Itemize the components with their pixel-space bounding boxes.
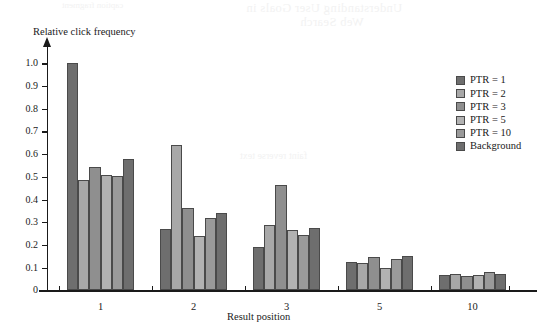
legend-item-label: PTR = 10 xyxy=(470,128,511,139)
x-tick-label: 5 xyxy=(377,302,382,313)
bar xyxy=(484,272,495,290)
bar xyxy=(205,218,216,291)
y-tick-label: 0.6 xyxy=(26,149,39,159)
y-tick-mark xyxy=(42,86,48,87)
y-tick-mark xyxy=(42,245,48,246)
bar xyxy=(78,180,89,290)
bar xyxy=(287,230,298,290)
y-tick-mark xyxy=(42,268,48,269)
y-tick-label: 0 xyxy=(33,285,38,295)
bar xyxy=(194,236,205,290)
bar xyxy=(67,63,78,290)
x-tick-mark xyxy=(431,286,432,292)
legend-item-label: PTR = 1 xyxy=(470,75,506,86)
legend-swatch-icon xyxy=(456,116,465,125)
legend-item: PTR = 2 xyxy=(456,87,521,100)
bar xyxy=(461,276,472,291)
y-tick-label: 0.9 xyxy=(26,81,39,91)
chart-legend: PTR = 1PTR = 2PTR = 3PTR = 5PTR = 10Back… xyxy=(456,74,521,153)
x-tick-label: 2 xyxy=(191,302,196,313)
x-tick-mark xyxy=(59,286,60,292)
legend-swatch-icon xyxy=(456,102,465,111)
x-tick-mark xyxy=(245,286,246,292)
bar xyxy=(380,268,391,291)
chart-figure: Understanding User Goals in Web Search c… xyxy=(0,0,549,334)
y-tick-label: 0.2 xyxy=(26,240,39,250)
y-tick-label: 0.1 xyxy=(26,263,39,273)
bar xyxy=(123,159,134,291)
legend-item-label: PTR = 5 xyxy=(470,115,506,126)
y-tick-mark xyxy=(42,109,48,110)
y-tick-mark xyxy=(42,200,48,201)
bar xyxy=(402,256,413,290)
y-axis-line xyxy=(47,46,48,292)
y-tick-mark xyxy=(42,177,48,178)
bar xyxy=(391,259,402,291)
y-tick-mark xyxy=(42,222,48,223)
bar xyxy=(298,235,309,291)
bar xyxy=(495,274,506,290)
bleed-through-line-1: Understanding User Goals in xyxy=(246,1,402,16)
x-axis-line xyxy=(39,290,537,292)
y-tick-label: 1.0 xyxy=(26,58,39,68)
bleed-through-line-2: Web Search xyxy=(300,15,364,30)
legend-item: Background xyxy=(456,140,521,153)
x-tick-mark xyxy=(152,286,153,292)
legend-swatch-icon xyxy=(456,142,465,151)
x-tick-label: 1 xyxy=(98,302,103,313)
y-axis-arrow-icon xyxy=(43,37,51,47)
x-tick-mark xyxy=(509,286,510,292)
plot-area: 00.10.20.30.40.50.60.70.80.91.0 123510 xyxy=(47,46,387,292)
bar xyxy=(182,208,193,291)
legend-swatch-icon xyxy=(456,129,465,138)
legend-item-label: PTR = 3 xyxy=(470,102,506,113)
x-tick-mark xyxy=(338,286,339,292)
legend-item: PTR = 10 xyxy=(456,127,521,140)
y-tick-label: 0.3 xyxy=(26,217,39,227)
legend-swatch-icon xyxy=(456,76,465,85)
y-tick-mark xyxy=(42,290,48,291)
legend-item-label: Background xyxy=(470,141,521,152)
y-tick-label: 0.7 xyxy=(26,126,39,136)
bar xyxy=(357,263,368,290)
bar xyxy=(101,175,112,291)
legend-item: PTR = 1 xyxy=(456,74,521,87)
bleed-through-line-3: caption fragment xyxy=(62,0,123,10)
bar xyxy=(253,247,264,290)
bar xyxy=(450,274,461,291)
y-tick-label: 0.5 xyxy=(26,172,39,182)
legend-item-label: PTR = 2 xyxy=(470,89,506,100)
bar xyxy=(216,213,227,290)
bar xyxy=(275,185,286,291)
legend-swatch-icon xyxy=(456,89,465,98)
x-axis-label: Result position xyxy=(227,311,290,322)
bar xyxy=(346,262,357,290)
x-tick-label: 3 xyxy=(284,302,289,313)
x-tick-label: 10 xyxy=(467,302,478,313)
bar xyxy=(160,229,171,290)
bar xyxy=(89,167,100,291)
y-axis-label: Relative click frequency xyxy=(33,26,136,37)
y-tick-label: 0.4 xyxy=(26,195,39,205)
bar xyxy=(171,145,182,290)
y-tick-label: 0.8 xyxy=(26,104,39,114)
bar xyxy=(368,257,379,290)
bar xyxy=(309,228,320,290)
legend-item: PTR = 5 xyxy=(456,114,521,127)
bar xyxy=(264,225,275,291)
y-tick-mark xyxy=(42,154,48,155)
bar xyxy=(473,275,484,290)
legend-item: PTR = 3 xyxy=(456,100,521,113)
y-tick-mark xyxy=(42,63,48,64)
y-tick-mark xyxy=(42,131,48,132)
bar xyxy=(112,176,123,291)
bar xyxy=(439,275,450,290)
